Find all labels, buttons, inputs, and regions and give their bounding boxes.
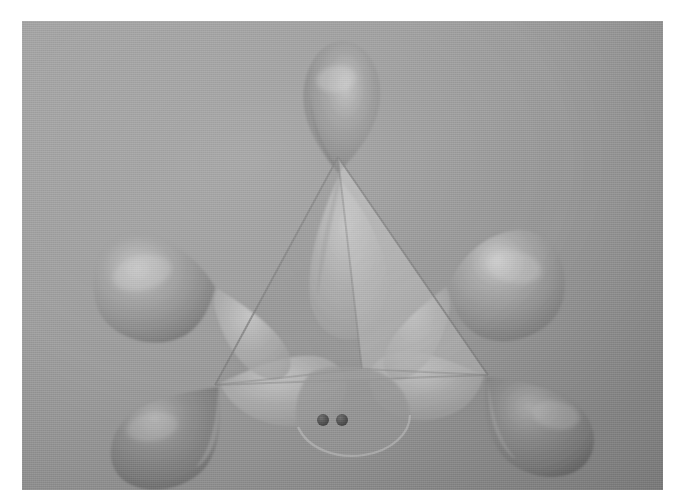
orbital-diagram-canvas [22,21,663,490]
figure-page [0,0,686,504]
figure-haze-overlay [22,21,663,490]
orbital-diagram-figure [22,21,663,490]
